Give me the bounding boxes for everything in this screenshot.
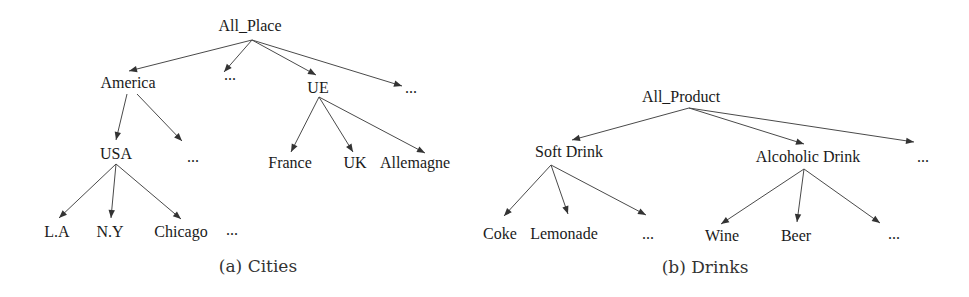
drinks-tree: All_ProductSoft DrinkAlcoholic Drink...C…: [483, 88, 929, 277]
tree-node-dots5: ...: [917, 148, 929, 165]
tree-edge-arrow: [572, 108, 689, 140]
figure-caption-drinks: (b) Drinks: [662, 257, 749, 277]
tree-node-dots6: ...: [642, 225, 654, 242]
tree-node-dots1: ...: [224, 66, 236, 83]
tree-node-dots7: ...: [888, 225, 900, 242]
tree-node-all-product: All_Product: [642, 88, 721, 105]
tree-edge-arrow: [252, 40, 316, 75]
tree-node-chicago: Chicago: [154, 223, 207, 241]
tree-diagrams: All_PlaceAmerica...UE...USA...FranceUKAl…: [0, 0, 969, 297]
cities-tree: All_PlaceAmerica...UE...USA...FranceUKAl…: [44, 17, 450, 276]
tree-node-ue: UE: [307, 79, 328, 96]
tree-node-uk: UK: [343, 154, 367, 171]
tree-edge-arrow: [319, 97, 425, 153]
figure-caption-cities: (a) Cities: [219, 256, 297, 276]
tree-edge-arrow: [116, 164, 181, 219]
tree-node-wine: Wine: [705, 227, 739, 244]
tree-node-coke: Coke: [483, 225, 517, 242]
tree-node-la: L.A: [44, 223, 70, 240]
tree-node-all-place: All_Place: [218, 17, 281, 34]
tree-edge-arrow: [797, 169, 804, 222]
tree-edge-arrow: [116, 94, 127, 140]
tree-edge-arrow: [689, 108, 804, 144]
tree-node-america: America: [100, 74, 155, 91]
tree-edge-arrow: [59, 164, 116, 218]
tree-node-ny: N.Y: [96, 223, 124, 240]
tree-node-lemonade: Lemonade: [530, 225, 598, 242]
tree-node-dots3: ...: [187, 148, 199, 165]
tree-edge-arrow: [111, 164, 116, 218]
tree-node-france: France: [268, 154, 312, 171]
tree-edge-arrow: [291, 97, 319, 152]
tree-node-dots2: ...: [405, 79, 417, 96]
tree-edge-arrow: [504, 165, 551, 216]
tree-node-allemagne: Allemagne: [380, 154, 450, 172]
tree-node-beer: Beer: [781, 227, 812, 244]
tree-edge-arrow: [319, 97, 353, 152]
tree-edge-arrow: [721, 169, 804, 224]
tree-edge-arrow: [689, 108, 914, 142]
figure-canvas: All_PlaceAmerica...UE...USA...FranceUKAl…: [0, 0, 969, 297]
tree-edge-arrow: [137, 94, 182, 141]
tree-node-dots4: ...: [226, 221, 238, 238]
tree-node-alcoholic-drink: Alcoholic Drink: [756, 148, 860, 165]
tree-node-usa: USA: [100, 145, 132, 162]
tree-node-soft-drink: Soft Drink: [535, 143, 603, 160]
tree-edge-arrow: [804, 169, 880, 223]
